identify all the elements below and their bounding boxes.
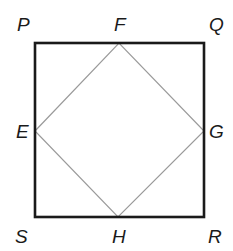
inner-quadrilateral-efgh: [35, 43, 204, 217]
label-s: S: [15, 226, 28, 247]
outer-square-pqrs: [35, 43, 204, 217]
label-q: Q: [209, 14, 224, 35]
label-r: R: [208, 226, 222, 247]
label-f: F: [114, 14, 127, 35]
label-p: P: [17, 14, 30, 35]
label-g: G: [209, 121, 224, 142]
label-h: H: [112, 226, 126, 247]
label-e: E: [16, 121, 29, 142]
square-diagram: P F Q E G S H R: [0, 0, 233, 251]
